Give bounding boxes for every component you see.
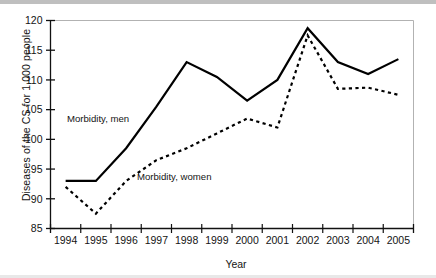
annotation-morbidity-women: Morbidity, women xyxy=(137,171,211,182)
y-tick-label: 105 xyxy=(25,103,43,115)
y-tick-label: 95 xyxy=(31,163,43,175)
x-tick-label: 2002 xyxy=(296,234,320,246)
x-tick-label: 2001 xyxy=(266,234,290,246)
y-tick-label: 120 xyxy=(25,14,43,26)
x-tick-label: 1998 xyxy=(175,234,199,246)
y-tick-label: 115 xyxy=(26,44,43,56)
y-tick-label: 110 xyxy=(26,74,43,86)
x-tick-label: 1995 xyxy=(84,234,108,246)
annotation-morbidity-men: Morbidity, men xyxy=(67,113,129,124)
x-tick-label: 2005 xyxy=(387,234,411,246)
x-tick-label: 1999 xyxy=(205,234,229,246)
y-tick-labels: 859095100105110115120 xyxy=(25,14,43,234)
line-chart-plot: 859095100105110115120 199419951996199719… xyxy=(0,0,436,278)
series-line-morbidity-men xyxy=(66,28,399,181)
x-tick-label: 2003 xyxy=(326,234,350,246)
y-tick-label: 90 xyxy=(31,193,43,205)
x-axis-label: Year xyxy=(0,258,436,270)
y-tick-label: 85 xyxy=(31,222,43,234)
x-tick-label: 1996 xyxy=(114,234,138,246)
x-tick-label: 2004 xyxy=(356,234,380,246)
x-axis-label-text: Year xyxy=(189,258,246,270)
x-tick-label: 1994 xyxy=(54,234,78,246)
chart-figure: Diseases of the CS for 1,000 people 8590… xyxy=(0,0,436,278)
x-tick-label: 2000 xyxy=(235,234,259,246)
series-line-morbidity-women xyxy=(66,35,399,213)
chart-axes xyxy=(46,21,414,234)
x-tick-labels: 1994199519961997199819992000200120022003… xyxy=(54,234,410,246)
y-tick-label: 100 xyxy=(25,133,43,145)
x-tick-label: 1997 xyxy=(145,234,169,246)
